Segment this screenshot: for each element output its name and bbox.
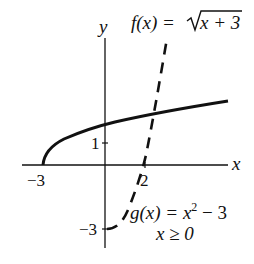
- svg-text:x + 3: x + 3: [199, 12, 240, 33]
- y-tick-label-1: 1: [91, 134, 100, 153]
- x-axis-label: x: [231, 153, 241, 174]
- x-tick-label-neg3: −3: [27, 171, 45, 190]
- y-tick-label-neg3: −3: [79, 220, 97, 239]
- g-equation-label: g(x) = x2 − 3 x ≥ 0: [130, 200, 227, 244]
- f-equation-label: f(x) = x + 3: [131, 11, 242, 34]
- function-graph: y x −3 2 1 −3 f(x) = x + 3 g(x) = x2 − 3…: [0, 0, 254, 264]
- curve-f-sqrt: [43, 101, 228, 165]
- svg-text:x ≥ 0: x ≥ 0: [155, 223, 194, 244]
- y-axis-label: y: [97, 16, 108, 37]
- x-tick-label-2: 2: [140, 171, 149, 190]
- curve-g-parabola: [107, 38, 167, 229]
- svg-text:f(x) =: f(x) =: [131, 12, 175, 34]
- svg-text:g(x) = x2 − 3: g(x) = x2 − 3: [130, 200, 227, 224]
